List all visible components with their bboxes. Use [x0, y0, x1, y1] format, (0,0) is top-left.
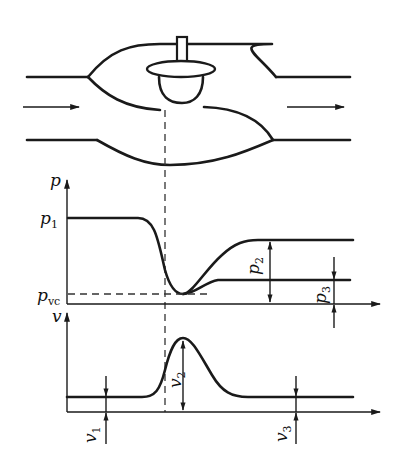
plug-disk [147, 61, 215, 77]
valve-stem [177, 37, 187, 62]
pvc-label: pvc [37, 285, 60, 308]
valve-flow-diagram: p p1 pvc p2 p3 v v1 v2 v [0, 0, 403, 474]
v-axis-label: v [52, 306, 62, 326]
valve-plug [147, 37, 215, 103]
velocity-curve [67, 338, 353, 397]
p2-label: p2 [243, 257, 266, 275]
p3-label: p3 [310, 286, 333, 304]
p1-label: p1 [40, 208, 58, 231]
seat-curve [204, 107, 273, 140]
plug-bowl [159, 77, 203, 103]
v2-label: v2 [165, 371, 188, 388]
v3-label: v3 [271, 425, 294, 442]
velocity-chart: v v1 v2 v3 [52, 306, 380, 444]
valve-bottom-curve [97, 140, 273, 165]
p-axis-label: p [50, 170, 61, 190]
pressure-chart: p p1 pvc p2 p3 [37, 170, 380, 328]
v1-label: v1 [80, 426, 103, 443]
inlet-inner-curve [88, 77, 160, 110]
